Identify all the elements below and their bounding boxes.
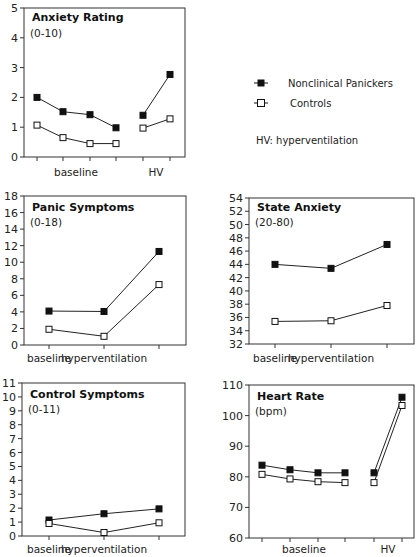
y-tick-label: 3 — [9, 488, 16, 501]
filled-square-marker-icon — [46, 308, 52, 314]
series-controls — [272, 303, 390, 325]
y-tick-label: 44 — [229, 258, 243, 271]
panel-panic-symptoms: 024681012141618baselinehyperventilationP… — [4, 190, 186, 364]
panel-subtitle: (0-11) — [28, 403, 60, 415]
y-axis: 323436384042444648505254 — [229, 192, 249, 351]
filled-square-marker-icon — [156, 506, 162, 512]
filled-square-marker-icon — [328, 265, 334, 271]
filled-square-marker-icon — [315, 470, 321, 476]
y-tick-label: 2 — [9, 502, 16, 515]
open-square-marker-icon — [371, 480, 377, 486]
y-tick-label: 90 — [229, 440, 243, 453]
filled-square-marker-icon — [113, 125, 119, 131]
series-panickers — [34, 71, 173, 130]
panel-title: State Anxiety — [257, 201, 341, 214]
panel-subtitle: (0-18) — [30, 216, 62, 228]
y-tick-label: 70 — [229, 501, 243, 514]
panel-subtitle: (20-80) — [255, 216, 294, 228]
open-square-marker-icon — [156, 520, 162, 526]
y-tick-label: 34 — [229, 325, 243, 338]
series-panickers — [46, 506, 162, 523]
panel-title: Anxiety Rating — [32, 11, 124, 24]
y-tick-label: 10 — [2, 391, 16, 404]
x-group-label: HV — [380, 543, 396, 555]
open-square-marker-icon — [34, 122, 40, 128]
y-tick-label: 2 — [11, 322, 18, 335]
x-group-label: baseline — [54, 166, 98, 178]
filled-square-marker-icon — [87, 112, 93, 118]
y-tick-label: 4 — [11, 32, 18, 45]
y-tick-label: 1 — [9, 516, 16, 529]
open-square-marker-icon — [384, 303, 390, 309]
filled-square-marker-icon — [140, 112, 146, 118]
y-tick-label: 6 — [11, 289, 18, 302]
series-controls — [34, 116, 173, 147]
y-tick-label: 11 — [2, 377, 16, 390]
y-tick-label: 12 — [4, 240, 18, 253]
x-axis: baselineHV — [37, 157, 170, 178]
filled-square-marker-icon — [272, 261, 278, 267]
y-tick-label: 10 — [4, 256, 18, 269]
y-tick-label: 8 — [11, 273, 18, 286]
filled-square-marker-icon — [101, 511, 107, 517]
y-axis: 01234567891011 — [2, 377, 22, 543]
y-tick-label: 3 — [11, 62, 18, 75]
y-tick-label: 48 — [229, 232, 243, 245]
y-axis: 012345 — [11, 2, 24, 164]
y-tick-label: 4 — [11, 306, 18, 319]
series-panickers — [46, 248, 162, 314]
x-tick-label: hyperventilation — [288, 352, 374, 364]
filled-square-marker-icon — [167, 71, 173, 77]
y-axis: 024681012141618 — [4, 190, 24, 352]
panel-title: Panic Symptoms — [32, 201, 135, 214]
y-tick-label: 18 — [4, 190, 18, 203]
open-square-marker-icon — [140, 125, 146, 131]
y-tick-label: 32 — [229, 338, 243, 351]
open-square-marker-icon — [101, 333, 107, 339]
y-tick-label: 50 — [229, 219, 243, 232]
series-panickers — [272, 241, 390, 271]
series-controls — [46, 520, 162, 536]
x-axis: baselinehyperventilation — [27, 536, 159, 555]
y-tick-label: 8 — [9, 419, 16, 432]
y-tick-label: 16 — [4, 207, 18, 220]
y-tick-label: 40 — [229, 285, 243, 298]
y-tick-label: 0 — [11, 151, 18, 164]
panel-control-symptoms: 01234567891011baselinehyperventilationCo… — [2, 377, 185, 555]
y-tick-label: 14 — [4, 223, 18, 236]
panel-title: Control Symptoms — [30, 388, 145, 401]
y-tick-label: 7 — [9, 433, 16, 446]
open-square-marker-icon — [113, 141, 119, 147]
filled-square-marker-icon — [101, 308, 107, 314]
panel-title: Heart Rate — [257, 390, 324, 403]
y-tick-label: 36 — [229, 311, 243, 324]
panel-state-anxiety: 323436384042444648505254baselinehyperven… — [229, 192, 414, 364]
y-tick-label: 4 — [9, 474, 16, 487]
figure-canvas: 012345baselineHVAnxiety Rating(0-10)0246… — [0, 0, 419, 557]
open-square-marker-icon — [101, 530, 107, 536]
y-tick-label: 42 — [229, 272, 243, 285]
open-square-marker-icon — [287, 476, 293, 482]
x-group-label: HV — [148, 166, 164, 178]
open-square-marker-icon — [46, 326, 52, 332]
filled-square-marker-icon — [371, 470, 377, 476]
open-square-marker-icon — [315, 479, 321, 485]
open-square-marker-icon — [328, 318, 334, 324]
y-tick-label: 6 — [9, 447, 16, 460]
y-tick-label: 60 — [229, 532, 243, 545]
filled-square-marker-icon — [34, 94, 40, 100]
x-axis: baselinehyperventilation — [27, 345, 159, 364]
y-tick-label: 110 — [222, 379, 243, 392]
y-tick-label: 1 — [11, 121, 18, 134]
filled-square-marker-icon — [342, 470, 348, 476]
y-tick-label: 0 — [11, 339, 18, 352]
y-tick-label: 100 — [222, 410, 243, 423]
y-tick-label: 5 — [11, 2, 18, 15]
open-square-marker-icon — [342, 480, 348, 486]
x-tick-label: hyperventilation — [61, 352, 147, 364]
panel-subtitle: (bpm) — [255, 405, 287, 417]
panel-subtitle: (0-10) — [30, 27, 62, 39]
filled-square-marker-icon — [60, 109, 66, 115]
y-tick-label: 54 — [229, 192, 243, 205]
y-tick-label: 0 — [9, 530, 16, 543]
